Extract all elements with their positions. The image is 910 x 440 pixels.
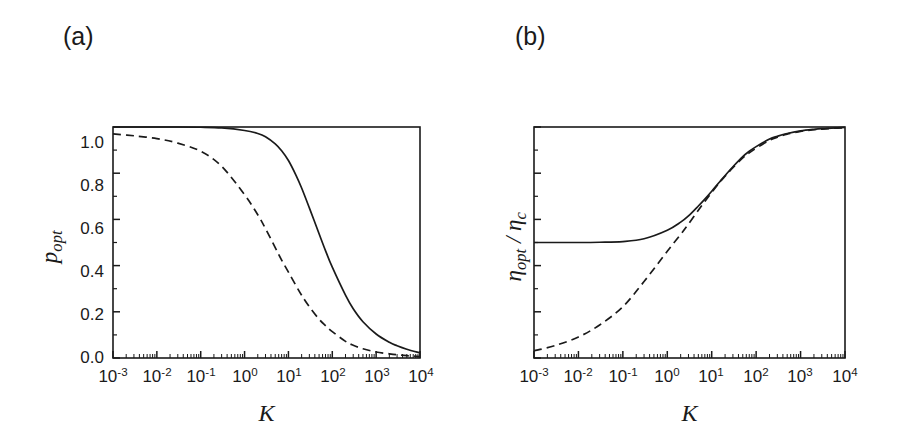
panel-a: (a) popt K 0.0 0.2 0.4 0.6 0.8 1.0 10-3 …: [0, 0, 455, 440]
panel-a-curve-solid: [113, 127, 420, 353]
figure-container: (a) popt K 0.0 0.2 0.4 0.6 0.8 1.0 10-3 …: [0, 0, 910, 440]
panel-a-curve-dashed: [113, 134, 420, 357]
panel-a-plot: [0, 0, 455, 440]
panel-b-curve-dashed: [534, 128, 845, 351]
panel-b-plot: [455, 0, 910, 440]
panel-b: (b) ηopt / ηc K 0.0 0.2 0.4 0.6 0.8 1.0 …: [455, 0, 910, 440]
panel-a-ticks: [113, 127, 420, 358]
panel-a-frame: [113, 127, 420, 358]
panel-b-curve-solid: [534, 127, 845, 242]
